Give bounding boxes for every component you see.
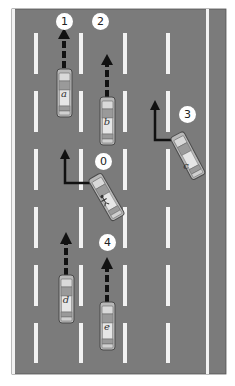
- road-surface: [12, 9, 226, 374]
- lane-divider-4: [166, 33, 170, 363]
- vehicle-d: [59, 275, 74, 323]
- lane-divider-1: [34, 33, 38, 363]
- lane-divider-3: [123, 33, 127, 363]
- vehicle-e: [100, 302, 115, 350]
- highway-scene: [0, 0, 235, 386]
- right-edge-line: [206, 9, 209, 374]
- vehicle-b: [100, 97, 115, 145]
- left-edge-line: [12, 9, 15, 374]
- vehicle-a: [57, 69, 72, 117]
- lane-divider-2: [79, 33, 83, 363]
